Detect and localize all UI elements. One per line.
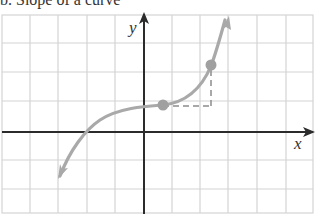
- y-axis-label: y: [127, 18, 137, 37]
- grid: [2, 15, 313, 213]
- point-lower: [158, 100, 169, 111]
- x-axis-label: x: [293, 134, 302, 153]
- point-upper: [206, 60, 217, 71]
- curve-arrow-top: [221, 16, 231, 30]
- graph: x y: [0, 0, 324, 224]
